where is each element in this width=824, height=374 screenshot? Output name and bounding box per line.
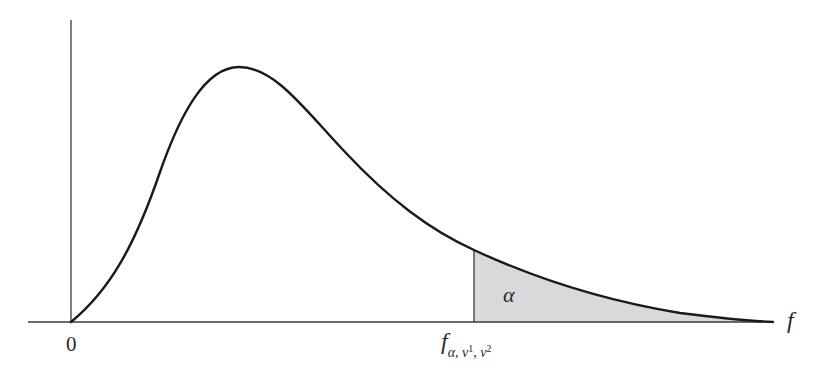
critical-value-main: f <box>441 328 448 354</box>
alpha-area-label: α <box>503 284 515 306</box>
critical-value-subscript-nu2-index: 2 <box>486 343 491 354</box>
origin-label: 0 <box>66 334 77 355</box>
f-distribution-plot <box>0 0 824 374</box>
critical-value-subscript-alpha: α, <box>448 345 462 360</box>
f-distribution-figure: 0 f α fα, ν1, ν2 <box>0 0 824 374</box>
critical-value-label: fα, ν1, ν2 <box>441 329 491 353</box>
shaded-tail-area <box>474 250 773 322</box>
x-axis-label: f <box>787 308 794 332</box>
density-curve <box>71 67 773 322</box>
